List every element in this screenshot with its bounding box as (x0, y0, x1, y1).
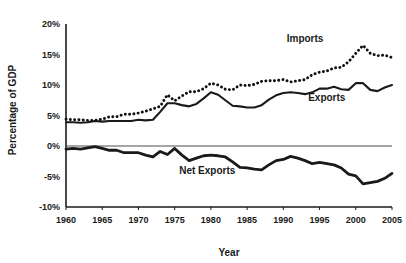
x-tick-label: 1985 (237, 215, 257, 225)
x-tick-label: 1970 (128, 215, 148, 225)
y-tick-label: -10% (39, 202, 60, 212)
x-tick-label: 1980 (201, 215, 221, 225)
x-tick-label: 1965 (92, 215, 112, 225)
gdp-trade-line-chart: 20%15%10%5%0%-5%-10% 1960196519701975198… (0, 0, 406, 263)
series-annotation-net-exports: Net Exports (179, 165, 236, 176)
series-annotation-exports: Exports (308, 92, 346, 103)
series-annotation-imports: Imports (287, 33, 324, 44)
y-tick-label: 10% (42, 80, 60, 90)
x-tick-label: 2000 (346, 215, 366, 225)
x-tick-label: 1975 (165, 215, 185, 225)
y-tick-label: -5% (44, 172, 60, 182)
x-tick-label: 1960 (56, 215, 76, 225)
chart-container: 20%15%10%5%0%-5%-10% 1960196519701975198… (0, 0, 406, 263)
x-tick-label: 1995 (310, 215, 330, 225)
x-tick-label: 2005 (382, 215, 402, 225)
x-tick-label: 1990 (273, 215, 293, 225)
y-tick-label: 0% (47, 141, 60, 151)
x-axis-title: Year (218, 247, 239, 258)
y-tick-label: 5% (47, 111, 60, 121)
y-tick-label: 20% (42, 19, 60, 29)
y-axis-title: Percentage of GDP (7, 64, 18, 155)
y-tick-label: 15% (42, 50, 60, 60)
